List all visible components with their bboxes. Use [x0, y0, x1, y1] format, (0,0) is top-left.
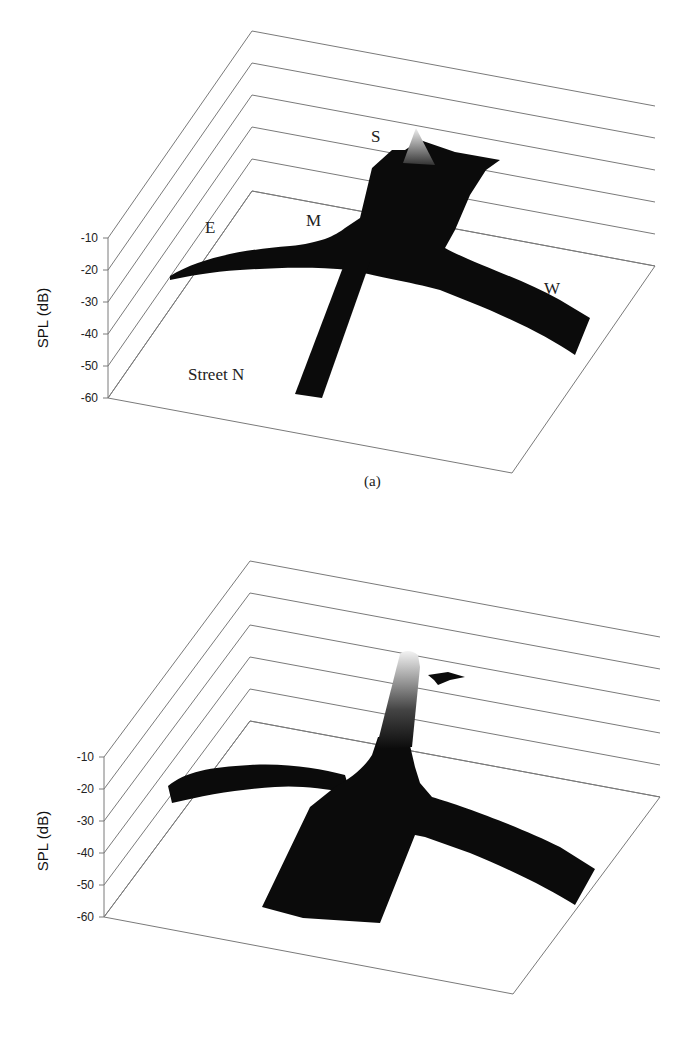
source-column: [376, 651, 420, 749]
surface-plot-b: -10 -20 -30 -40 -50 -60 SPL (dB) (b): [0, 517, 691, 1041]
z-tick-label: -10: [77, 750, 95, 764]
z-tick-label: -40: [81, 327, 99, 341]
surface-plot-a: -10 -20 -30 -40 -50 -60 SPL (dB) S M E W…: [0, 0, 691, 520]
z-tick-label: -50: [77, 878, 95, 892]
figure-b: -10 -20 -30 -40 -50 -60 SPL (dB) (b): [0, 517, 691, 1041]
label-m: M: [306, 211, 321, 230]
label-street-n: Street N: [188, 365, 244, 384]
z-axis-title: SPL (dB): [34, 288, 51, 348]
z-tick-label: -30: [77, 814, 95, 828]
z-tick-label: -60: [77, 910, 95, 924]
label-e: E: [205, 218, 215, 237]
z-tick-label: -30: [81, 295, 99, 309]
caption-a: (a): [364, 473, 381, 490]
label-w: W: [544, 279, 561, 298]
z-tick-label: -60: [81, 391, 99, 405]
spl-surface: [168, 737, 595, 923]
z-tick-label: -20: [77, 782, 95, 796]
z-axis-title: SPL (dB): [34, 811, 51, 871]
z-tick-label: -50: [81, 359, 99, 373]
z-tick-label: -20: [81, 263, 99, 277]
spl-surface: [170, 140, 590, 398]
z-ticks: [103, 238, 108, 398]
surface-fragment: [428, 672, 465, 685]
z-ticks: [99, 757, 104, 917]
figure-a: -10 -20 -30 -40 -50 -60 SPL (dB) S M E W…: [0, 0, 691, 520]
z-tick-label: -10: [81, 231, 99, 245]
z-tick-label: -40: [77, 846, 95, 860]
label-s: S: [371, 127, 380, 146]
